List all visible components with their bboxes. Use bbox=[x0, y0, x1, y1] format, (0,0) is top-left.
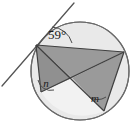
angle-label-m: m bbox=[91, 92, 99, 104]
angle-label-n: n bbox=[43, 77, 49, 89]
geometry-canvas: 59° n m bbox=[0, 0, 136, 131]
angle-label-59-degrees: 59° bbox=[48, 27, 66, 42]
geometry-figure: 59° n m bbox=[0, 0, 136, 131]
